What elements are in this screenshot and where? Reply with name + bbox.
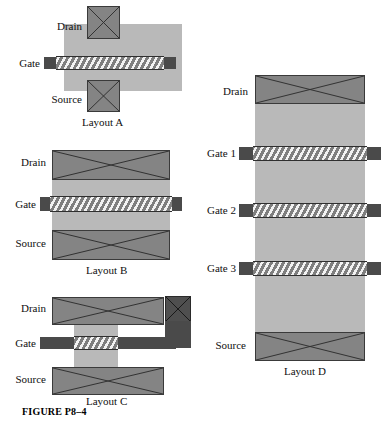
layout-c-caption: Layout C bbox=[86, 395, 127, 407]
layout-c-source-contact bbox=[52, 367, 164, 395]
layout-d-gate1-label: Gate 1 bbox=[198, 148, 236, 159]
layout-d-drain-contact bbox=[255, 75, 365, 104]
figure-canvas: Drain Gate Source Layout A Drain Gate bbox=[0, 0, 381, 421]
layout-c-gate-contact-pad bbox=[165, 296, 191, 322]
layout-a-drain-contact bbox=[87, 6, 120, 39]
layout-c-source-label: Source bbox=[4, 374, 46, 385]
x-mark-icon bbox=[53, 298, 163, 324]
layout-b-drain-contact bbox=[52, 150, 170, 180]
layout-d-gate3-label: Gate 3 bbox=[198, 263, 236, 274]
layout-b-source-contact bbox=[52, 230, 170, 260]
layout-d-source-label: Source bbox=[204, 340, 246, 351]
layout-c-gate-bar bbox=[74, 336, 118, 350]
layout-a-source-contact bbox=[87, 80, 120, 112]
layout-d-gate2-label: Gate 2 bbox=[198, 205, 236, 216]
layout-a-drain-label: Drain bbox=[48, 21, 82, 32]
x-mark-icon bbox=[88, 7, 119, 38]
layout-b-source-label: Source bbox=[4, 238, 46, 249]
layout-b-drain-label: Drain bbox=[10, 157, 46, 168]
x-mark-icon bbox=[256, 76, 364, 103]
layout-a-gate-label: Gate bbox=[8, 58, 40, 69]
layout-b-caption: Layout B bbox=[86, 264, 127, 276]
layout-d-gate3-bar bbox=[253, 261, 367, 276]
layout-d-source-contact bbox=[255, 332, 365, 361]
layout-a-gate-bar bbox=[56, 56, 164, 70]
layout-c-gate-bar-left bbox=[40, 337, 76, 349]
layout-c-gate-bar-right bbox=[116, 337, 176, 349]
x-mark-icon bbox=[256, 333, 364, 360]
layout-b-gate-label: Gate bbox=[4, 199, 36, 210]
x-mark-icon bbox=[88, 81, 119, 111]
x-mark-icon bbox=[53, 151, 169, 179]
layout-d-body-region bbox=[255, 75, 365, 361]
x-mark-icon bbox=[53, 368, 163, 394]
layout-d-gate1-bar bbox=[253, 146, 367, 161]
layout-a-caption: Layout A bbox=[82, 116, 123, 128]
layout-d-gate2-bar bbox=[253, 203, 367, 218]
layout-c-drain-contact bbox=[52, 297, 164, 325]
layout-d-drain-label: Drain bbox=[212, 86, 248, 97]
x-mark-icon bbox=[53, 231, 169, 259]
x-mark-icon bbox=[166, 297, 190, 321]
layout-b-gate-bar bbox=[50, 196, 172, 212]
layout-c-gate-label: Gate bbox=[4, 338, 36, 349]
layout-d-caption: Layout D bbox=[284, 365, 326, 377]
layout-c-drain-label: Drain bbox=[10, 303, 46, 314]
layout-a-source-label: Source bbox=[42, 94, 82, 105]
figure-caption: FIGURE P8–4 bbox=[22, 406, 87, 417]
